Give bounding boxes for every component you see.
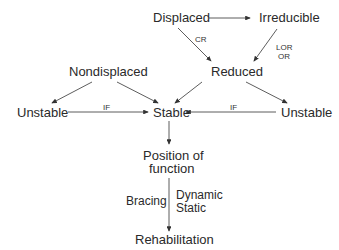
label-or: OR [278,52,290,61]
label-if-right: IF [230,103,237,112]
label-static: Static [176,202,206,215]
arrow-displaced-reduced [178,28,211,61]
arrow-nondisplaced-unstable [52,82,92,103]
node-unstable-left: Unstable [17,106,68,120]
node-displaced: Displaced [153,11,210,25]
label-if-left: IF [103,103,110,112]
node-irreducible: Irreducible [259,11,320,25]
node-nondisplaced: Nondisplaced [69,65,148,79]
arrow-irreducible-reduced [254,29,277,61]
label-cr: CR [195,35,207,44]
label-lor: LOR [276,43,292,52]
label-bracing: Bracing [126,195,167,208]
arrow-reduced-unstable [246,82,287,103]
arrow-nondisplaced-stable [117,82,158,103]
arrow-reduced-stable [175,82,202,103]
flowchart-arrows [0,0,339,250]
node-rehabilitation: Rehabilitation [135,233,214,247]
node-reduced: Reduced [211,65,263,79]
node-stable: Stable [153,106,190,120]
node-unstable-right: Unstable [281,106,332,120]
node-position-line2: function [149,162,195,176]
